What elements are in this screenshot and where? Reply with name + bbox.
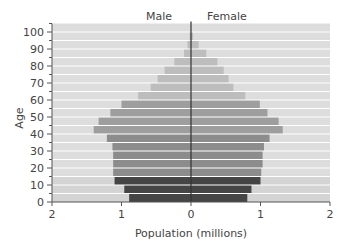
y-tick-label: 70 — [30, 77, 44, 90]
female-bar-85-89 — [191, 49, 206, 58]
y-tick-label: 20 — [30, 162, 44, 175]
legend-female-label: Female — [207, 10, 247, 23]
male-bar-75-79 — [165, 66, 191, 75]
male-bar-55-59 — [122, 100, 192, 109]
population-pyramid-chart: 0102030405060708090100 21012 Male Female… — [0, 0, 345, 251]
y-tick-label: 60 — [30, 94, 44, 107]
y-axis-title: Age — [13, 107, 26, 129]
y-tick-label: 50 — [30, 111, 44, 124]
y-tick-label: 0 — [37, 196, 44, 209]
male-bar-80-84 — [174, 58, 191, 67]
male-bar-45-49 — [99, 117, 191, 126]
female-bar-20-24 — [191, 160, 263, 169]
y-axis: 0102030405060708090100 — [23, 24, 52, 210]
y-tick-label: 90 — [30, 43, 44, 56]
female-bar-90-94 — [191, 41, 199, 50]
male-bar-70-74 — [158, 75, 191, 84]
female-bar-35-39 — [191, 134, 270, 143]
legend-male-label: Male — [146, 10, 172, 23]
male-bar-0-4 — [129, 194, 191, 203]
female-bar-70-74 — [191, 75, 229, 84]
female-bar-75-79 — [191, 66, 224, 75]
x-axis: 21012 — [49, 202, 334, 221]
female-bar-40-44 — [191, 126, 283, 135]
y-tick-label: 30 — [30, 145, 44, 158]
x-tick-label: 1 — [118, 208, 125, 221]
male-bar-10-14 — [115, 177, 191, 186]
y-tick-label: 40 — [30, 128, 44, 141]
y-tick-label: 100 — [23, 26, 44, 39]
female-bar-10-14 — [191, 177, 261, 186]
female-bar-60-64 — [191, 92, 245, 101]
female-bar-65-69 — [191, 83, 233, 92]
x-tick-label: 1 — [257, 208, 264, 221]
male-bar-5-9 — [124, 185, 191, 194]
male-bar-25-29 — [113, 151, 191, 160]
female-bar-45-49 — [191, 117, 279, 126]
female-bar-25-29 — [191, 151, 263, 160]
male-bar-85-89 — [184, 49, 191, 58]
female-bar-50-54 — [191, 109, 267, 118]
male-bar-40-44 — [94, 126, 191, 135]
x-tick-label: 2 — [49, 208, 56, 221]
female-bar-55-59 — [191, 100, 260, 109]
female-bar-0-4 — [191, 194, 247, 203]
male-bar-60-64 — [138, 92, 191, 101]
male-bar-30-34 — [112, 143, 191, 152]
male-bar-35-39 — [107, 134, 191, 143]
male-bar-20-24 — [113, 160, 191, 169]
x-tick-label: 2 — [327, 208, 334, 221]
x-tick-label: 0 — [188, 208, 195, 221]
male-bar-65-69 — [151, 83, 191, 92]
male-bar-15-19 — [113, 168, 191, 177]
male-bar-50-54 — [110, 109, 191, 118]
female-bar-15-19 — [191, 168, 261, 177]
y-tick-label: 80 — [30, 60, 44, 73]
female-bar-30-34 — [191, 143, 264, 152]
female-bar-5-9 — [191, 185, 251, 194]
x-axis-title: Population (millions) — [135, 227, 247, 240]
y-tick-label: 10 — [30, 179, 44, 192]
female-bar-80-84 — [191, 58, 217, 67]
